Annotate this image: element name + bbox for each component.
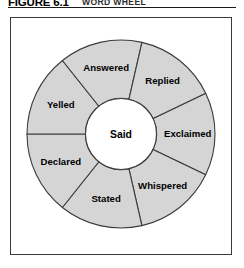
wheel-segment-label: Yelled — [47, 99, 75, 110]
word-wheel-svg: ExclaimedWhisperedStatedDeclaredYelledAn… — [10, 17, 232, 255]
wheel-segment-label: Whispered — [138, 180, 187, 191]
wheel-segment-label: Replied — [145, 75, 180, 86]
wheel-segment-label: Exclaimed — [164, 128, 212, 139]
wheel-segment-label: Declared — [41, 156, 82, 167]
wheel-segment-label: Answered — [83, 62, 129, 73]
figure-caption: WORD WHEEL — [82, 0, 146, 7]
header-divider — [8, 7, 236, 8]
wheel-segment-label: Stated — [91, 193, 120, 204]
word-wheel: ExclaimedWhisperedStatedDeclaredYelledAn… — [10, 17, 232, 255]
wheel-hub-label: Said — [110, 129, 132, 140]
figure-container: FIGURE 6.1 WORD WHEEL ExclaimedWhispered… — [0, 0, 244, 268]
